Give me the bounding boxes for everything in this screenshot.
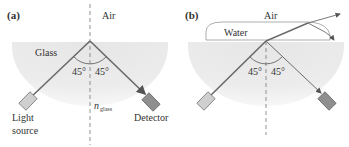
water-label: Water — [224, 27, 248, 38]
panel-a-label: (a) — [7, 9, 20, 22]
detector-icon — [318, 92, 336, 110]
angle-right-label: 45° — [95, 66, 109, 77]
panel-a: (a) Air Glass 45° 45° n glass Light sour… — [7, 4, 169, 145]
angle-right-label: 45° — [271, 66, 285, 77]
angle-left-label: 45° — [248, 66, 262, 77]
angle-left-label: 45° — [72, 66, 86, 77]
panel-b-label: (b) — [185, 9, 199, 22]
diagram-canvas: (a) Air Glass 45° 45° n glass Light sour… — [0, 0, 349, 147]
panel-b: (b) Air Water 45° 45° — [185, 9, 344, 135]
detector-label: Detector — [134, 112, 169, 123]
air-label: Air — [102, 10, 116, 21]
escaping-ray-air — [308, 14, 340, 23]
index-subscript: glass — [100, 106, 113, 112]
detector-icon — [142, 93, 160, 111]
glass-label: Glass — [35, 47, 57, 58]
index-symbol: n — [94, 100, 99, 111]
light-source-label-1: Light — [12, 112, 34, 123]
air-label: Air — [264, 10, 278, 21]
light-source-label-2: source — [12, 125, 39, 136]
